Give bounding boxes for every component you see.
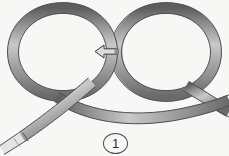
step-number-badge: 1 — [103, 133, 128, 154]
step-number-text: 1 — [112, 137, 119, 150]
figure-canvas: 1 — [0, 0, 229, 156]
